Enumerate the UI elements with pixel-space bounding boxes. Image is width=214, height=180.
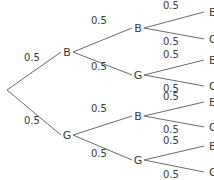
probability-label: 0.5 — [91, 103, 107, 114]
probability-label: 0.5 — [163, 36, 179, 47]
probability-label: 0.5 — [163, 0, 179, 11]
edge-level1-to-level2 — [73, 28, 132, 52]
node-level3-b: B — [209, 54, 214, 67]
probability-label: 0.5 — [163, 169, 179, 180]
edge-level2-to-level3 — [144, 102, 204, 116]
tree-labels: B0.5G0.5B0.5G0.5B0.5G0.5B0.5G0.5B0.5G0.5… — [24, 0, 214, 180]
node-level3-g: G — [209, 121, 214, 134]
node-level3-b: B — [209, 96, 214, 109]
probability-label: 0.5 — [24, 115, 40, 126]
node-level3-b: B — [209, 140, 214, 153]
probability-label: 0.5 — [163, 91, 179, 102]
probability-label: 0.5 — [163, 135, 179, 146]
probability-tree-diagram: B0.5G0.5B0.5G0.5B0.5G0.5B0.5G0.5B0.5G0.5… — [0, 0, 214, 180]
node-level3-g: G — [209, 166, 214, 179]
edge-level2-to-level3 — [144, 146, 204, 160]
node-level2-g: G — [134, 154, 143, 167]
node-level3-g: G — [209, 80, 214, 93]
edge-root-to-level1 — [7, 90, 61, 135]
node-level2-g: G — [134, 69, 143, 82]
edge-level2-to-level3 — [144, 60, 204, 75]
node-level2-b: B — [134, 22, 142, 35]
edge-level1-to-level2 — [73, 116, 132, 135]
node-level1-g: G — [63, 129, 72, 142]
node-level3-b: B — [209, 6, 214, 19]
probability-label: 0.5 — [163, 49, 179, 60]
node-level3-g: G — [209, 33, 214, 46]
probability-label: 0.5 — [163, 124, 179, 135]
probability-label: 0.5 — [91, 15, 107, 26]
probability-label: 0.5 — [91, 61, 107, 72]
probability-label: 0.5 — [24, 52, 40, 63]
probability-label: 0.5 — [91, 148, 107, 159]
edge-level2-to-level3 — [144, 12, 204, 28]
node-level2-b: B — [134, 110, 142, 123]
node-level1-b: B — [63, 46, 71, 59]
